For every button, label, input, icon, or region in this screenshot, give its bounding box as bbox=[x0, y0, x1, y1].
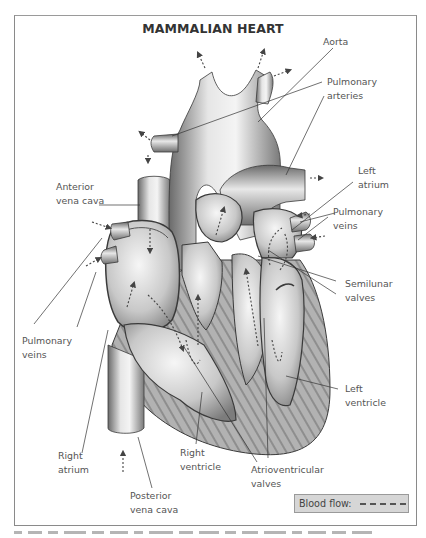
label-pulmonary-veins-right: Pulmonary veins bbox=[333, 205, 383, 232]
label-aorta: Aorta bbox=[323, 35, 348, 49]
label-pulmonary-arteries: Pulmonary arteries bbox=[327, 75, 377, 102]
label-posterior-vena-cava: Posterior vena cava bbox=[130, 489, 178, 516]
blood-flow-legend: Blood flow: bbox=[294, 494, 409, 513]
cut-off-caption-text bbox=[14, 531, 414, 535]
label-right-atrium: Right atrium bbox=[58, 449, 89, 476]
label-right-ventricle: Right ventricle bbox=[180, 446, 221, 473]
label-semilunar-valves: Semilunar valves bbox=[345, 277, 393, 304]
label-left-atrium: Left atrium bbox=[358, 164, 389, 191]
label-pulmonary-veins-left: Pulmonary veins bbox=[22, 334, 72, 361]
label-anterior-vena-cava: Anterior vena cava bbox=[56, 180, 104, 207]
label-atrioventricular-valves: Atrioventricular valves bbox=[251, 463, 324, 490]
label-left-ventricle: Left ventricle bbox=[345, 382, 386, 409]
legend-label: Blood flow: bbox=[299, 498, 352, 509]
dashed-line-icon bbox=[360, 503, 406, 505]
